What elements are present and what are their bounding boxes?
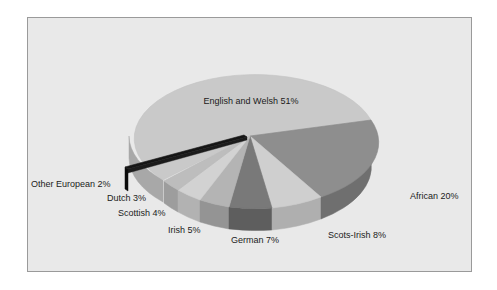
- chart-panel: English and Welsh 51% African 20% Scots-…: [27, 17, 472, 272]
- pie-chart-graphic: [28, 18, 472, 272]
- slice-label-other-european: Other European 2%: [31, 179, 111, 190]
- pie-chart-figure: English and Welsh 51% African 20% Scots-…: [0, 0, 497, 290]
- slice-label-scottish: Scottish 4%: [118, 208, 166, 219]
- slice-label-irish: Irish 5%: [168, 225, 201, 236]
- slice-label-dutch: Dutch 3%: [107, 193, 146, 204]
- slice-label-scots-irish: Scots-Irish 8%: [328, 230, 386, 241]
- slice-label-german: German 7%: [231, 235, 279, 246]
- slice-label-african: African 20%: [410, 191, 459, 202]
- slice-side-german: [229, 207, 272, 231]
- slice-label-english-and-welsh: English and Welsh 51%: [204, 96, 299, 107]
- slice-side-other-european: [125, 167, 128, 191]
